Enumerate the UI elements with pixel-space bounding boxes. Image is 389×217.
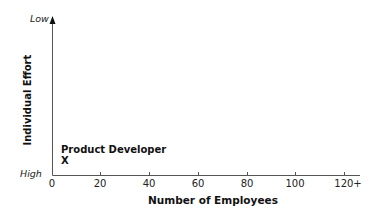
y-axis-title: Individual Effort — [22, 56, 33, 146]
y-axis-top-label: Low — [30, 13, 49, 24]
x-tick-label: 80 — [241, 178, 254, 189]
y-axis-bottom-label: High — [20, 168, 42, 179]
y-axis-arrow-icon — [50, 16, 56, 24]
x-tick-label: 0 — [49, 178, 55, 189]
data-point-marker-icon: X — [61, 155, 69, 166]
x-tick-label: 100 — [285, 178, 304, 189]
data-point-label: Product Developer — [61, 144, 166, 155]
x-tick-label: 60 — [192, 178, 205, 189]
x-axis-title: Number of Employees — [148, 194, 278, 206]
x-tick-label: 20 — [94, 178, 107, 189]
x-axis-ticks — [101, 172, 345, 176]
x-tick-label: 120+ — [334, 178, 361, 189]
x-tick-label: 40 — [143, 178, 156, 189]
